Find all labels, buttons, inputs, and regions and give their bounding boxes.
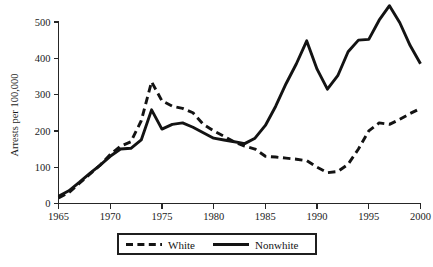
x-tick-label: 1995 — [358, 211, 379, 222]
series-line-white — [59, 82, 421, 198]
x-tick-label: 1975 — [151, 211, 172, 222]
y-tick-label: 500 — [35, 17, 51, 28]
legend-label-nonwhite: Nonwhite — [255, 239, 299, 251]
caption-text — [0, 261, 433, 267]
chart-legend: White Nonwhite — [118, 234, 316, 254]
x-tick-label: 1965 — [48, 211, 69, 222]
legend-label-white: White — [168, 239, 195, 251]
x-axis-ticks: 19651970197519801985199019952000 — [48, 204, 431, 222]
chart-figure: Arrests per 100,000 0100200300400500 196… — [0, 0, 433, 267]
series-line-nonwhite — [59, 6, 421, 197]
x-tick-label: 1970 — [100, 211, 121, 222]
x-tick-label: 1990 — [307, 211, 328, 222]
y-tick-label: 100 — [35, 162, 51, 173]
x-tick-label: 1985 — [255, 211, 276, 222]
y-axis-title-label: Arrests per 100,000 — [9, 73, 20, 156]
series-lines — [59, 6, 421, 198]
x-tick-label: 1980 — [203, 211, 224, 222]
y-tick-label: 300 — [35, 89, 51, 100]
y-tick-label: 200 — [35, 126, 51, 137]
y-axis-ticks: 0100200300400500 — [35, 17, 59, 210]
line-chart: Arrests per 100,000 0100200300400500 196… — [0, 0, 433, 267]
x-tick-label: 2000 — [410, 211, 431, 222]
y-tick-label: 400 — [35, 53, 51, 64]
y-axis-title: Arrests per 100,000 — [9, 73, 20, 156]
y-tick-label: 0 — [45, 198, 50, 209]
